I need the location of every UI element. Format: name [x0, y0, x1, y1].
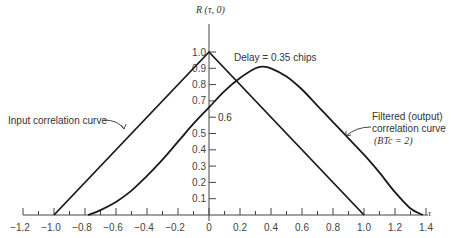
filtered-curve-annotation-line3: (BTc = 2) [374, 135, 413, 147]
x-tick-label: 0.8 [326, 222, 340, 233]
x-tick-label: 1.0 [357, 222, 371, 233]
x-tick-label: −0.6 [103, 222, 123, 233]
x-tick-label: 0.2 [233, 222, 247, 233]
x-tick-label: −1.0 [41, 222, 61, 233]
y-tick-label: 0.8 [192, 79, 206, 90]
x-tick-label: −1.2 [10, 222, 30, 233]
x-tick-label: −0.8 [72, 222, 92, 233]
x-tick-label: −0.2 [165, 222, 185, 233]
mid-value-annotation: 0.6 [218, 112, 232, 124]
x-tick-label: 0.4 [264, 222, 278, 233]
ticks [23, 52, 426, 215]
filtered-curve-annotation-line1: Filtered (output) [372, 111, 443, 123]
x-tick-label: 1.2 [388, 222, 402, 233]
x-tick-label: 0.6 [295, 222, 309, 233]
y-tick-label: 0.1 [192, 193, 206, 204]
input-curve-arrowhead-icon [121, 124, 126, 129]
y-axis-label: R (τ, 0) [196, 4, 225, 16]
x-axis-label: τ [428, 208, 431, 218]
x-tick-label: 0 [206, 222, 212, 233]
series [54, 52, 423, 215]
y-tick-label: 0.2 [192, 177, 206, 188]
annotation-arrows [104, 120, 371, 136]
x-tick-label: 1.4 [419, 222, 433, 233]
y-tick-label: 0.4 [192, 144, 206, 155]
y-tick-label: 0.3 [192, 161, 206, 172]
input-curve-annotation: Input correlation curve [8, 115, 107, 127]
input-curve-arrow-icon [104, 120, 124, 129]
y-tick-label: 0.7 [192, 95, 206, 106]
filtered-curve-annotation-line2: correlation curve [372, 123, 446, 135]
delay-annotation: Delay = 0.35 chips [234, 52, 317, 64]
y-tick-label: 0.5 [192, 128, 206, 139]
x-tick-label: −0.4 [134, 222, 154, 233]
filtered-curve-arrow-icon [346, 127, 371, 136]
filtered-correlation-curve [88, 67, 423, 215]
tick-labels: −1.2−1.0−0.8−0.6−0.4−0.200.20.40.60.81.0… [10, 47, 433, 234]
